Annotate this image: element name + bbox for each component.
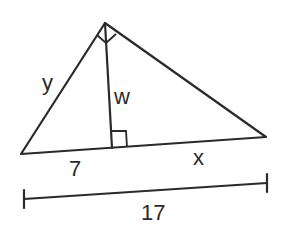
label-y: y [42,70,53,95]
geometry-diagram: y w 7 x 17 [0,0,282,236]
triangle [21,23,266,154]
right-angle-marker-base [112,131,127,147]
label-17: 17 [141,200,165,225]
diagram-canvas: y w 7 x 17 [0,0,282,236]
dimension-line [24,183,267,199]
label-7: 7 [69,156,81,181]
label-x: x [193,145,204,170]
label-w: w [113,84,130,109]
